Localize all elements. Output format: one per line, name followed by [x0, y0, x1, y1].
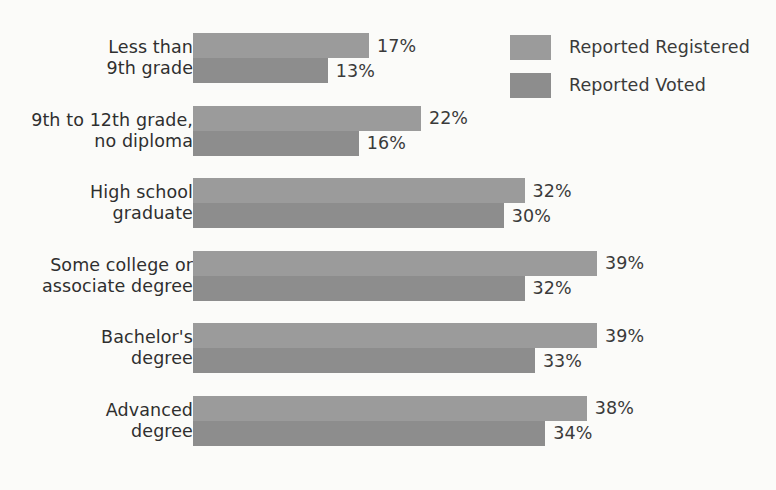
bar-registered — [193, 33, 369, 58]
bar-pair: 22%16% — [193, 106, 776, 156]
category-label: Some college orassociate degree — [42, 255, 193, 297]
bar-row: 16% — [193, 131, 776, 156]
category-label-line: Less than — [107, 37, 193, 58]
bar-value-label: 16% — [367, 133, 406, 153]
bar-pair: 39%33% — [193, 323, 776, 373]
bar-value-label: 22% — [429, 108, 468, 128]
bar-group: Some college orassociate degree39%32% — [0, 240, 776, 313]
bar-registered — [193, 178, 525, 203]
bar-voted — [193, 58, 328, 83]
bar-value-label: 32% — [533, 278, 572, 298]
bar-group: 9th to 12th grade,no diploma22%16% — [0, 95, 776, 168]
legend-swatch-registered — [510, 35, 551, 60]
category-label-line: Some college or — [42, 255, 193, 276]
bar-voted — [193, 276, 525, 301]
category-label-line: Bachelor's — [101, 327, 193, 348]
category-label-line: 9th grade — [107, 58, 193, 79]
bar-value-label: 34% — [553, 423, 592, 443]
bar-pair: 38%34% — [193, 396, 776, 446]
category-label-line: Advanced — [106, 400, 193, 421]
bar-row: 30% — [193, 203, 776, 228]
legend-label: Reported Voted — [569, 75, 706, 95]
bar-group: Advanceddegree38%34% — [0, 385, 776, 458]
bar-value-label: 30% — [512, 206, 551, 226]
bar-value-label: 17% — [377, 36, 416, 56]
category-label: High schoolgraduate — [90, 182, 193, 224]
bar-registered — [193, 251, 597, 276]
bar-row: 39% — [193, 251, 776, 276]
bar-row: 33% — [193, 348, 776, 373]
legend-label: Reported Registered — [569, 37, 750, 57]
legend-item: Reported Voted — [510, 66, 770, 104]
bar-row: 38% — [193, 396, 776, 421]
bar-row: 32% — [193, 276, 776, 301]
bar-row: 39% — [193, 323, 776, 348]
bar-row: 22% — [193, 106, 776, 131]
category-label-line: associate degree — [42, 276, 193, 297]
category-label-line: graduate — [90, 203, 193, 224]
bar-pair: 39%32% — [193, 251, 776, 301]
chart-legend: Reported RegisteredReported Voted — [510, 28, 770, 104]
category-label-line: degree — [106, 421, 193, 442]
category-label: Advanceddegree — [106, 400, 193, 442]
bar-registered — [193, 323, 597, 348]
bar-row: 34% — [193, 421, 776, 446]
category-label-line: High school — [90, 182, 193, 203]
category-label-line: no diploma — [31, 131, 193, 152]
bar-value-label: 39% — [605, 326, 644, 346]
bar-value-label: 39% — [605, 253, 644, 273]
bar-voted — [193, 421, 545, 446]
bar-registered — [193, 106, 421, 131]
bar-group: Bachelor'sdegree39%33% — [0, 312, 776, 385]
category-label: Less than9th grade — [107, 37, 193, 79]
legend-item: Reported Registered — [510, 28, 770, 66]
category-label: Bachelor'sdegree — [101, 327, 193, 369]
bar-voted — [193, 348, 535, 373]
legend-swatch-voted — [510, 73, 551, 98]
category-label: 9th to 12th grade,no diploma — [31, 110, 193, 152]
bar-value-label: 33% — [543, 351, 582, 371]
grouped-bar-chart: Less than9th grade17%13%9th to 12th grad… — [0, 0, 776, 490]
bar-value-label: 32% — [533, 181, 572, 201]
bar-pair: 32%30% — [193, 178, 776, 228]
bar-value-label: 38% — [595, 398, 634, 418]
category-label-line: 9th to 12th grade, — [31, 110, 193, 131]
bar-registered — [193, 396, 587, 421]
bar-value-label: 13% — [336, 61, 375, 81]
category-label-line: degree — [101, 348, 193, 369]
bar-group: High schoolgraduate32%30% — [0, 167, 776, 240]
bar-row: 32% — [193, 178, 776, 203]
bar-voted — [193, 131, 359, 156]
bar-voted — [193, 203, 504, 228]
